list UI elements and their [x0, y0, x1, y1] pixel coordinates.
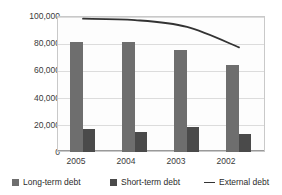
legend-item-external-debt[interactable]: External debt: [204, 177, 269, 188]
x-axis-tick-label: 2004: [101, 156, 151, 166]
square-swatch-icon: [110, 179, 117, 186]
y-axis-tick-label: 100,000: [0, 12, 60, 21]
bar-short-term-debt[interactable]: [135, 132, 147, 152]
legend-item-long-term-debt[interactable]: Long-term debt: [12, 177, 81, 188]
bar-long-term-debt[interactable]: [174, 50, 187, 152]
bar-short-term-debt[interactable]: [239, 134, 251, 152]
x-axis-tick-label: 2003: [151, 156, 201, 166]
x-axis-tick-label: 2005: [51, 156, 101, 166]
y-axis-tick-label: 80,000: [0, 39, 60, 48]
bar-group: [122, 16, 161, 152]
bar-long-term-debt[interactable]: [226, 65, 239, 152]
square-swatch-icon: [12, 179, 19, 186]
y-axis-tick-label: 40,000: [0, 94, 60, 103]
y-axis-tick-label: 20,000: [0, 121, 60, 130]
debt-bar-chart: 100,000 80,000 60,000 40,000 20,000 0 20…: [0, 0, 282, 195]
bar-group: [226, 16, 265, 152]
line-dash-icon: [204, 182, 215, 183]
chart-legend: Long-term debt Short-term debt External …: [0, 177, 282, 191]
bar-long-term-debt[interactable]: [122, 42, 135, 152]
legend-item-short-term-debt[interactable]: Short-term debt: [110, 177, 180, 188]
bar-long-term-debt[interactable]: [70, 42, 83, 152]
bar-short-term-debt[interactable]: [83, 129, 95, 152]
bar-series-layer: [57, 16, 265, 152]
bar-group: [174, 16, 213, 152]
bar-group: [70, 16, 109, 152]
legend-item-label: Short-term debt: [121, 177, 180, 188]
bar-short-term-debt[interactable]: [187, 127, 199, 152]
legend-item-label: Long-term debt: [23, 177, 81, 188]
y-axis-tick-label: 60,000: [0, 66, 60, 75]
legend-item-label: External debt: [219, 177, 269, 188]
x-axis-tick-label: 2002: [201, 156, 251, 166]
